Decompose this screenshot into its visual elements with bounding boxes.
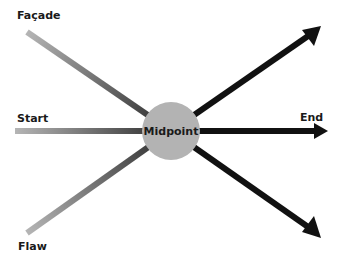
end-label: End <box>300 112 323 123</box>
flow-diagram: Façade Start Flaw End Midpoint <box>0 0 338 264</box>
start-label: Start <box>17 113 48 124</box>
midpoint-label: Midpoint <box>144 125 199 138</box>
flaw-label: Flaw <box>18 241 47 252</box>
end-arrowhead-icon <box>314 123 328 139</box>
midpoint-node: Midpoint <box>142 102 200 160</box>
facade-label: Façade <box>17 10 61 21</box>
